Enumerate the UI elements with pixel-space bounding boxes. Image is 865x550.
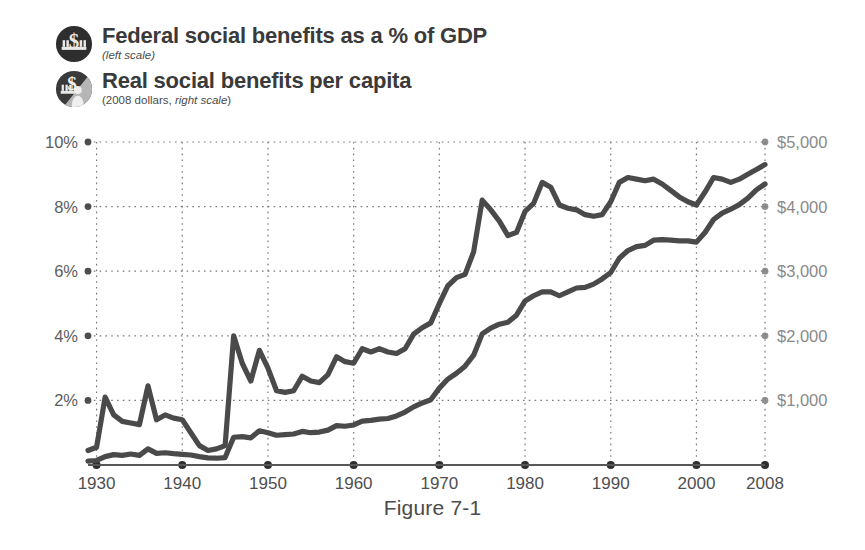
series-line-gdp-percent [88, 165, 765, 451]
x-axis-tick-label: 1930 [78, 474, 116, 493]
x-axis-tick-label: 1980 [506, 474, 544, 493]
x-axis-tick-label: 1940 [163, 474, 201, 493]
right-axis-tick-label: $3,000 [777, 262, 827, 280]
x-axis-tick-label: 1970 [420, 474, 458, 493]
right-axis-tick-label: $2,000 [777, 327, 827, 345]
figure-caption: Figure 7-1 [0, 496, 865, 520]
left-axis-labels: 2%4%6%8%10% [45, 133, 78, 409]
left-axis-tick-label: 10% [45, 133, 78, 151]
right-axis-tick-label: $5,000 [777, 133, 827, 151]
left-axis-tick-label: 4% [54, 327, 78, 345]
series-lines [88, 165, 765, 462]
x-axis-tick-label: 2008 [746, 474, 784, 493]
x-axis-tick-label: 2000 [678, 474, 716, 493]
x-axis-tick-label: 1990 [592, 474, 630, 493]
x-axis-labels: 193019401950196019701980199020002008 [78, 474, 784, 493]
x-axis [88, 461, 769, 469]
line-chart: 2%4%6%8%10% $1,000$2,000$3,000$4,000$5,0… [0, 0, 865, 510]
left-axis-tick-label: 8% [54, 198, 78, 216]
right-axis-labels: $1,000$2,000$3,000$4,000$5,000 [777, 133, 827, 409]
left-axis-tick-label: 2% [54, 391, 78, 409]
right-axis-tick-label: $4,000 [777, 198, 827, 216]
x-axis-tick-label: 1950 [249, 474, 287, 493]
right-axis-tick-label: $1,000 [777, 391, 827, 409]
x-axis-tick-label: 1960 [335, 474, 373, 493]
left-axis-tick-label: 6% [54, 262, 78, 280]
